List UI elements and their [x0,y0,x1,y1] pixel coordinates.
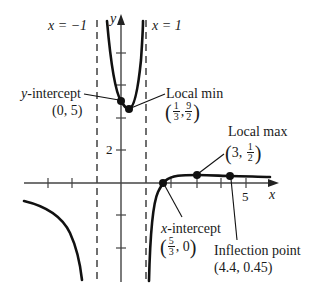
point-local-min [125,105,133,113]
y-intercept-coords: (0, 5) [52,104,82,118]
point-inflection [226,172,234,180]
local-max-coords: (3, 12) [225,142,261,163]
leader-local-max [199,154,224,173]
x-axis-label: x [269,188,275,202]
local-max-label: Local max [228,125,287,139]
curve-left-branch [24,201,82,280]
leader-x-intercept [165,186,182,217]
leader-y-intercept [84,94,119,100]
y-tick-label-2: 2 [106,143,113,156]
inflection-coords: (4.4, 0.45) [214,261,272,275]
x-axis [24,178,279,188]
point-y-intercept [117,97,125,105]
curve-middle-branch [107,21,143,109]
y-intercept-label: y-intercept [21,87,81,101]
x-tick-label-5: 5 [242,190,249,203]
y-axis [116,14,126,282]
asymptote-left-label: x = −1 [48,19,87,33]
leader-inflection [231,179,237,240]
x-intercept-label: x-intercept [161,222,221,236]
asymptote-right-label: x = 1 [152,19,182,33]
x-intercept-coords: (53, 0) [160,236,196,257]
y-axis-label: y [110,12,116,26]
inflection-label: Inflection point [214,244,301,258]
x-axis-arrow-icon [268,179,279,187]
y-axis-arrow-icon [117,14,125,25]
point-x-intercept [159,179,167,187]
local-min-label: Local min [166,87,223,101]
local-min-coords: (13,92) [165,101,200,122]
